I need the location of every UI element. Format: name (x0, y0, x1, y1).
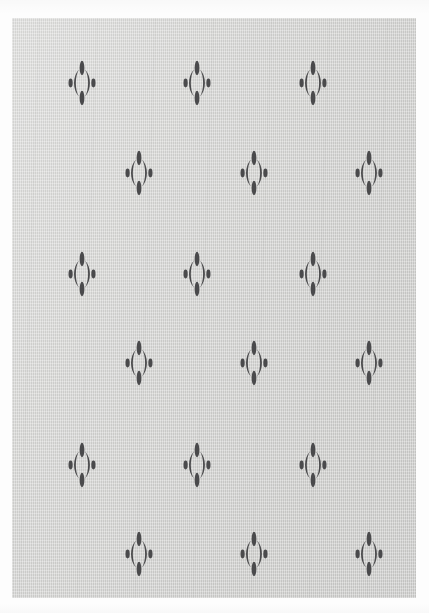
floral-ornament-motif (240, 531, 268, 577)
floral-ornament-motif (299, 442, 327, 488)
floral-ornament-motif (240, 150, 268, 196)
floral-ornament-motif (299, 60, 327, 106)
floral-ornament-motif (125, 340, 153, 386)
floral-ornament-motif (355, 531, 383, 577)
floral-ornament-motif (299, 251, 327, 297)
floral-ornament-motif (183, 60, 211, 106)
floral-ornament-motif (68, 251, 96, 297)
image-canvas (0, 0, 429, 613)
floral-ornament-motif (355, 340, 383, 386)
floral-ornament-motif (183, 442, 211, 488)
floral-ornament-motif (125, 531, 153, 577)
floral-ornament-motif (355, 150, 383, 196)
floral-ornament-motif (125, 150, 153, 196)
floral-ornament-motif (183, 251, 211, 297)
floral-ornament-motif (68, 60, 96, 106)
floral-ornament-motif (68, 442, 96, 488)
floral-ornament-motif (240, 340, 268, 386)
rug-field (12, 18, 416, 598)
